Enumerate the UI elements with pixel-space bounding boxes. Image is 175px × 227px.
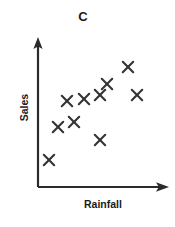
- data-point-marker: [79, 94, 89, 104]
- data-markers-group: [44, 62, 142, 165]
- data-point-marker: [44, 155, 54, 165]
- data-point-marker: [132, 90, 142, 100]
- x-axis-label: Rainfall: [48, 198, 158, 211]
- data-point-marker: [62, 96, 72, 106]
- axes-group: [33, 37, 169, 192]
- data-point-marker: [53, 122, 63, 132]
- data-point-marker: [95, 135, 105, 145]
- data-point-marker: [102, 79, 112, 89]
- y-axis-label: Sales: [18, 71, 31, 145]
- data-point-marker: [123, 62, 133, 72]
- scatter-chart-figure: C Sales Rainfall: [0, 0, 175, 227]
- data-point-marker: [95, 90, 105, 100]
- data-point-marker: [69, 117, 79, 127]
